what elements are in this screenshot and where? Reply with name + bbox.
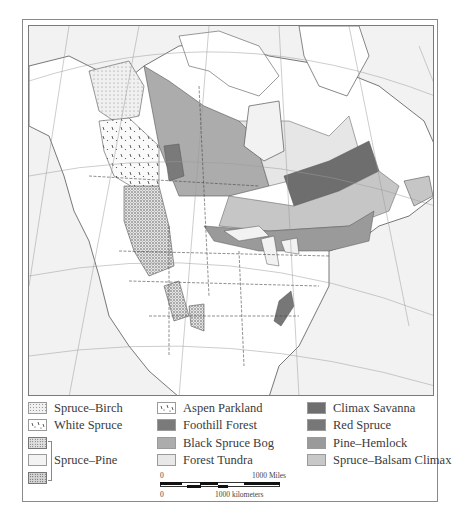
legend-item-red-spruce: Red Spruce	[307, 417, 391, 433]
legend-item-aspen-parkland: Aspen Parkland	[157, 400, 263, 416]
legend-item-black-spruce-bog: Black Spruce Bog	[157, 435, 274, 451]
map-legend: Spruce–Birch White Spruce Spruce–Pine As…	[28, 400, 434, 500]
legend-item-white-spruce: White Spruce	[28, 417, 122, 433]
forest-regions-map	[28, 25, 434, 396]
legend-item-climax-savanna: Climax Savanna	[307, 400, 415, 416]
legend-item-forest-tundra: Forest Tundra	[157, 452, 253, 468]
solid-swatch-icon	[307, 437, 326, 449]
dense-stipple-swatch-icon	[28, 437, 47, 449]
solid-swatch-icon	[307, 454, 326, 466]
legend-item-spruce-balsam-climax: Spruce–Balsam Climax	[307, 452, 451, 468]
legend-item-spruce-pine: Spruce–Pine	[28, 452, 117, 468]
solid-swatch-icon	[307, 419, 326, 431]
sparse-dots-swatch-icon	[28, 454, 47, 466]
dense-stipple-dark-swatch-icon	[28, 472, 47, 484]
legend-item-foothill-forest: Foothill Forest	[157, 417, 257, 433]
spruce-pine-bracket	[48, 441, 52, 481]
legend-item-pine-hemlock: Pine–Hemlock	[307, 435, 407, 451]
solid-swatch-icon	[157, 437, 176, 449]
fine-dots-swatch-icon	[28, 402, 47, 414]
dash-dot-swatch-icon	[28, 419, 47, 431]
solid-swatch-icon	[157, 454, 176, 466]
legend-item-spruce-birch: Spruce–Birch	[28, 400, 123, 416]
solid-swatch-icon	[307, 402, 326, 414]
scale-bar: 0 1000 Miles 0 1000 kilometers	[160, 471, 300, 501]
dash-dot-swatch-icon	[157, 402, 176, 414]
solid-swatch-icon	[157, 419, 176, 431]
